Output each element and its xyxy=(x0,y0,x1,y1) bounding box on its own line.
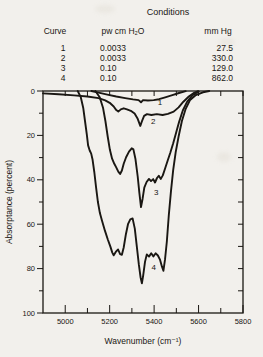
absorptance-spectra-chart: 500052005400560058000204060801001234Wave… xyxy=(0,0,263,357)
curve-1-label: 1 xyxy=(158,98,163,107)
y-tick-label: 60 xyxy=(27,220,35,229)
curve-3-label: 3 xyxy=(154,188,159,197)
scanned-figure-page: Conditions Curve pw cm H₂O mm Hg 1 0.003… xyxy=(0,0,263,357)
y-tick-label: 20 xyxy=(27,131,35,140)
y-tick-label: 0 xyxy=(31,87,35,96)
curve-2-label: 2 xyxy=(151,117,156,126)
y-tick-label: 40 xyxy=(27,175,35,184)
curve-4-label: 4 xyxy=(151,263,156,272)
x-tick-label: 5000 xyxy=(57,317,74,326)
curve-3-line xyxy=(95,91,198,207)
y-tick-label: 80 xyxy=(27,264,35,273)
x-tick-label: 5200 xyxy=(101,317,118,326)
x-tick-label: 5800 xyxy=(235,317,252,326)
x-tick-label: 5400 xyxy=(146,317,163,326)
x-axis-title: Wavenumber (cm⁻¹) xyxy=(105,336,182,346)
y-tick-label: 100 xyxy=(22,309,35,318)
y-axis-title: Absorptance (percent) xyxy=(4,160,14,244)
x-tick-label: 5600 xyxy=(190,317,207,326)
